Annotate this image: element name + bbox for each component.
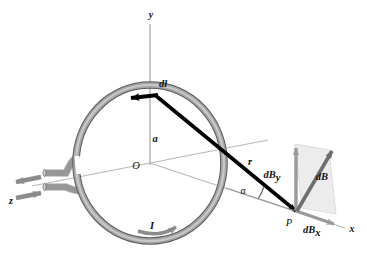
dBy-vector-label: dBy <box>264 169 281 183</box>
dB-vector-label: dB <box>316 171 328 182</box>
z-axis-label: z <box>8 195 13 206</box>
loop-lead-gap <box>77 156 79 174</box>
current-direction-group: I <box>138 220 176 233</box>
r-vector-group: r <box>155 95 296 211</box>
dBx-label-main: dB <box>303 224 315 235</box>
current-label: I <box>149 220 155 231</box>
radius-a-label: a <box>152 133 157 144</box>
diagram-canvas: y x z <box>0 0 367 265</box>
dBx-label-sub: x <box>314 227 320 238</box>
origin-label: O <box>132 160 140 171</box>
dl-vector-arrow <box>131 95 158 98</box>
dBx-vector-label: dBx <box>303 224 321 238</box>
loop-radius-group: a <box>152 133 157 144</box>
r-length-label: r <box>248 156 253 167</box>
point-P-label: P <box>285 217 293 228</box>
dl-vector-label: dl <box>159 78 167 89</box>
alpha-angle-group: α <box>226 185 296 211</box>
y-axis-label: y <box>148 9 154 20</box>
lead-current-arrow-in <box>16 193 41 198</box>
lead-current-arrow-out <box>16 177 41 182</box>
physics-diagram-figure: y x z <box>0 0 367 265</box>
lead-wires-group <box>16 157 82 198</box>
x-axis-label: x <box>349 223 355 234</box>
dBy-label-sub: y <box>274 172 281 183</box>
lead-wire-upper-end <box>43 170 46 177</box>
lead-wire-lower-end <box>43 184 46 191</box>
dBy-label-main: dB <box>264 169 276 180</box>
r-vector-arrow <box>155 95 296 211</box>
current-arrow-arc <box>138 227 176 234</box>
alpha-angle-arc <box>258 186 264 199</box>
alpha-angle-label: α <box>240 185 246 196</box>
alpha-angle-ray <box>226 188 296 211</box>
